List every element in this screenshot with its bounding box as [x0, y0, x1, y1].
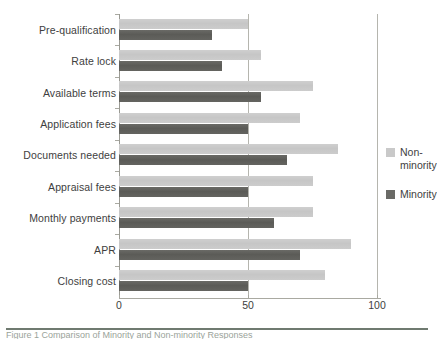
bar-minority — [119, 281, 248, 291]
x-axis-tick-label: 50 — [228, 299, 268, 311]
category-label: APR — [94, 244, 116, 256]
category-label: Available terms — [43, 87, 116, 99]
legend-label: Non- minority — [400, 146, 434, 172]
legend-swatch-minority — [386, 190, 395, 199]
bar-minority — [119, 92, 261, 102]
bar-nonminority — [119, 176, 313, 186]
bar-nonminority — [119, 239, 351, 249]
chart-row: Monthly payments — [0, 203, 434, 234]
bar-nonminority — [119, 50, 261, 60]
chart-row: Rate lock — [0, 45, 434, 76]
chart-row: Documents needed — [0, 140, 434, 171]
bar-nonminority — [119, 207, 313, 217]
bar-minority — [119, 187, 248, 197]
x-axis-tick-labels: 050100 — [0, 299, 434, 321]
bar-nonminority — [119, 270, 325, 280]
chart-rows: Pre-qualificationRate lockAvailable term… — [0, 14, 434, 297]
bar-minority — [119, 124, 248, 134]
bar-minority — [119, 30, 212, 40]
x-axis-tick-label: 100 — [357, 299, 397, 311]
chart-row: APR — [0, 234, 434, 265]
category-label: Pre-qualification — [39, 24, 116, 36]
legend-entry: Non- minority — [386, 146, 434, 172]
chart-row: Available terms — [0, 77, 434, 108]
chart-legend: Non- minorityMinority — [386, 146, 434, 217]
category-label: Rate lock — [71, 55, 116, 67]
chart-row: Application fees — [0, 108, 434, 139]
chart-row: Pre-qualification — [0, 14, 434, 45]
x-axis-tick-label: 0 — [99, 299, 139, 311]
bar-nonminority — [119, 113, 300, 123]
bar-minority — [119, 218, 274, 228]
bar-group — [119, 234, 381, 265]
legend-label: Minority — [400, 188, 434, 201]
bar-minority — [119, 61, 222, 71]
bar-minority — [119, 155, 287, 165]
bar-group — [119, 266, 381, 297]
bar-minority — [119, 250, 300, 260]
bar-nonminority — [119, 19, 248, 29]
legend-swatch-nonminority — [386, 148, 395, 157]
legend-entry: Minority — [386, 188, 434, 201]
category-label: Appraisal fees — [48, 181, 116, 193]
chart-row: Appraisal fees — [0, 171, 434, 202]
bar-group — [119, 14, 381, 45]
caption-divider-rule — [6, 328, 428, 330]
figure-caption-text: Figure 1 Comparison of Minority and Non-… — [6, 331, 253, 339]
bar-group — [119, 45, 381, 76]
figure-caption: Figure 1 Comparison of Minority and Non-… — [6, 331, 428, 339]
bar-group — [119, 140, 381, 171]
bar-group — [119, 171, 381, 202]
bar-nonminority — [119, 81, 313, 91]
bar-group — [119, 203, 381, 234]
category-label: Documents needed — [23, 149, 116, 161]
category-label: Monthly payments — [29, 212, 116, 224]
category-label: Closing cost — [58, 275, 116, 287]
bar-group — [119, 108, 381, 139]
bar-group — [119, 77, 381, 108]
chart-row: Closing cost — [0, 266, 434, 297]
category-label: Application fees — [40, 118, 116, 130]
bar-nonminority — [119, 144, 338, 154]
